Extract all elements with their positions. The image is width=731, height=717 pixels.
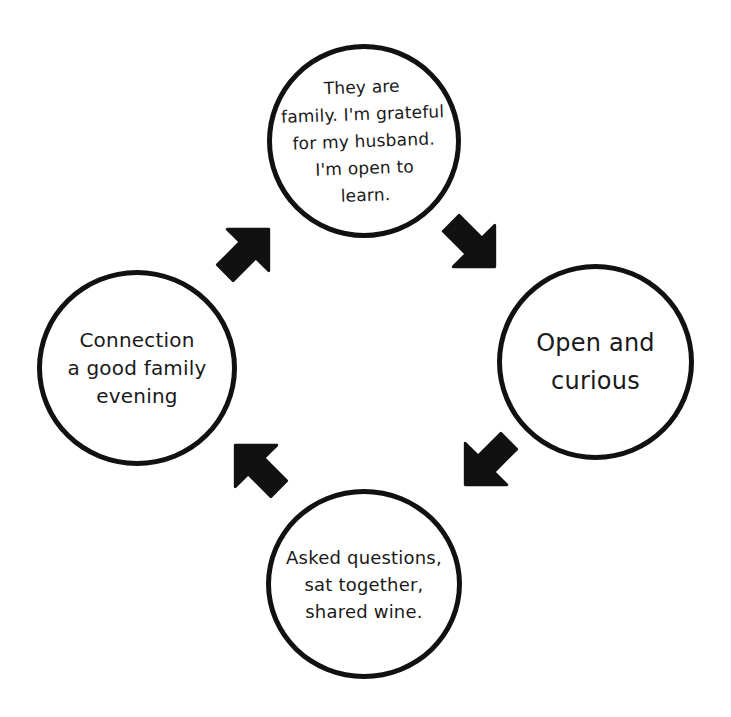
arrow-up-left-icon <box>222 432 292 502</box>
node-results-text: Connection a good family evening <box>67 326 206 410</box>
node-actions: Asked questions, sat together, shared wi… <box>266 489 462 679</box>
node-feelings: Open and curious <box>497 264 694 460</box>
node-results: Connection a good family evening <box>37 270 237 466</box>
node-thoughts-text: They are family. I'm grateful for my hus… <box>280 71 448 212</box>
cycle-diagram: They are family. I'm grateful for my hus… <box>0 0 731 717</box>
arrow-down-left-icon <box>452 428 522 498</box>
arrow-up-right-icon <box>212 216 282 286</box>
node-thoughts: They are family. I'm grateful for my hus… <box>267 44 461 238</box>
node-feelings-text: Open and curious <box>536 324 654 400</box>
node-actions-text: Asked questions, sat together, shared wi… <box>286 544 442 625</box>
arrow-down-right-icon <box>438 210 508 280</box>
